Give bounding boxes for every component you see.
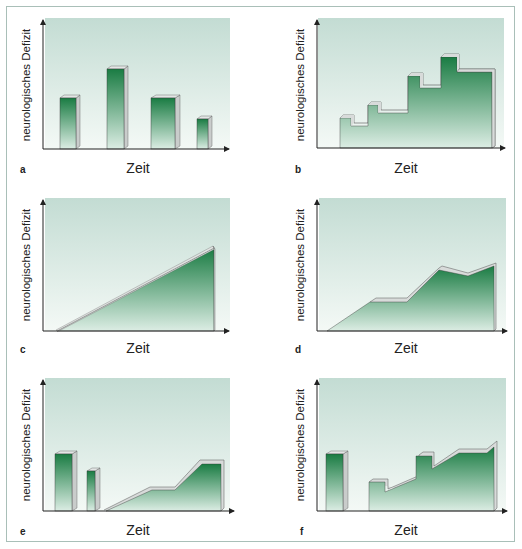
y-axis-label: neurologisches Defizit: [20, 388, 32, 501]
bar: [60, 95, 80, 149]
bar: [326, 451, 348, 511]
bar: [197, 116, 212, 149]
x-axis-label: Zeit: [126, 340, 149, 356]
y-axis-label: neurologisches Defizit: [294, 28, 306, 141]
panel-d: neurologisches Defizit Zeit d: [294, 198, 507, 356]
panel-f: neurologisches Defizit Zeit f: [294, 378, 507, 538]
y-axis-label: neurologisches Defizit: [20, 208, 32, 321]
x-axis-label: Zeit: [394, 160, 417, 176]
y-axis-label: neurologisches Defizit: [294, 388, 306, 501]
x-axis-label: Zeit: [126, 160, 149, 176]
y-axis-label: neurologisches Defizit: [294, 208, 306, 321]
panel-c: neurologisches Defizit Zeit c: [20, 198, 230, 356]
panel-label: f: [300, 526, 304, 537]
x-axis-label: Zeit: [394, 522, 417, 538]
x-axis-label: Zeit: [394, 340, 417, 356]
panel-e: neurologisches Defizit Zeit e: [20, 378, 234, 538]
panel-label: d: [295, 344, 301, 355]
panel-b: neurologisches Defizit Zeit b: [294, 18, 505, 176]
panel-label: a: [20, 164, 26, 175]
bar: [87, 468, 100, 511]
bar: [151, 95, 180, 149]
panel-label: c: [20, 344, 26, 355]
bar: [55, 451, 77, 511]
bar: [107, 66, 128, 149]
x-axis-label: Zeit: [126, 522, 149, 538]
figure-canvas: neurologisches Defizit Zeit a neurologis…: [0, 0, 522, 549]
y-axis-label: neurologisches Defizit: [20, 28, 32, 141]
panel-a: neurologisches Defizit Zeit a: [20, 18, 230, 176]
panel-label: b: [295, 164, 301, 175]
panel-label: e: [20, 526, 26, 537]
